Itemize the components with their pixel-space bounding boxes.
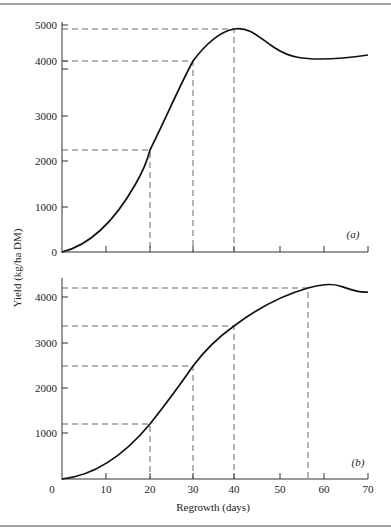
panel-b: 4000 3000 2000 1000 0 10 20 30 40 50 60 … [35, 278, 374, 495]
svg-text:4000: 4000 [35, 55, 58, 67]
svg-text:30: 30 [188, 483, 200, 495]
y-axis-label: Yield (kg/ha DM) [11, 228, 24, 307]
svg-text:1000: 1000 [35, 201, 58, 213]
panel-b-guides [62, 288, 308, 479]
figure: Yield (kg/ha DM) 5000 4000 30 [0, 0, 391, 530]
svg-text:4000: 4000 [35, 291, 58, 303]
panel-a-y-ticks [62, 25, 68, 207]
svg-text:5000: 5000 [35, 19, 58, 31]
panel-a-label: (a) [347, 228, 360, 241]
x-axis-label: Regrowth (days) [176, 501, 250, 514]
panel-a-y-tick-labels: 5000 4000 3000 2000 1000 0 [35, 19, 58, 258]
panel-b-label: (b) [352, 456, 365, 469]
svg-text:70: 70 [363, 483, 375, 495]
svg-text:20: 20 [145, 483, 157, 495]
svg-text:2000: 2000 [35, 382, 58, 394]
svg-text:50: 50 [275, 483, 287, 495]
panel-b-x-tick-labels: 0 10 20 30 40 50 60 70 [49, 483, 374, 495]
panel-a-x-ticks [106, 246, 368, 252]
svg-text:3000: 3000 [35, 110, 58, 122]
svg-text:0: 0 [52, 246, 58, 258]
svg-text:10: 10 [101, 483, 113, 495]
panel-a-guides [62, 29, 234, 252]
svg-text:0: 0 [49, 483, 55, 495]
svg-text:40: 40 [229, 483, 241, 495]
panel-a: 5000 4000 3000 2000 1000 0 (a) [35, 19, 368, 258]
svg-text:1000: 1000 [35, 427, 58, 439]
svg-text:2000: 2000 [35, 155, 58, 167]
panel-b-y-ticks [62, 297, 68, 433]
panel-b-x-ticks [106, 473, 368, 479]
panel-b-y-tick-labels: 4000 3000 2000 1000 [35, 291, 58, 439]
svg-text:3000: 3000 [35, 337, 58, 349]
panel-a-yield-curve [62, 29, 368, 252]
svg-text:60: 60 [319, 483, 331, 495]
panel-b-yield-curve [62, 285, 368, 479]
